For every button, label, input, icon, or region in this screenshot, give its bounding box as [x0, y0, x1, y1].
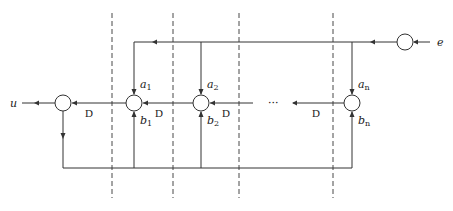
coef-a1: a1 — [140, 78, 152, 92]
sum-node-2 — [193, 95, 209, 111]
sum-node-n — [344, 95, 360, 111]
coef-a2: a2 — [207, 78, 219, 92]
output-node — [55, 95, 71, 111]
coef-b2: b2 — [207, 114, 219, 128]
coef-bn: bn — [358, 114, 370, 128]
input-node — [397, 34, 413, 50]
delay-label-1: D — [85, 107, 93, 119]
ellipsis: ··· — [268, 97, 279, 110]
coef-an: an — [358, 78, 370, 92]
sum-node-1 — [126, 95, 142, 111]
stage-dividers — [112, 13, 333, 198]
delay-label-4: D — [312, 107, 320, 119]
diagram-canvas: u e D D D D ··· a1 a2 an b1 b2 bn — [0, 0, 453, 211]
input-label: e — [437, 36, 444, 49]
delay-label-3: D — [222, 107, 230, 119]
feedforward-taps — [132, 42, 355, 95]
arrow-icon — [413, 40, 418, 45]
coef-b1: b1 — [140, 114, 152, 128]
input-branch — [134, 34, 430, 50]
output-label: u — [10, 97, 17, 110]
delay-chain — [22, 95, 360, 111]
delay-label-2: D — [155, 107, 163, 119]
